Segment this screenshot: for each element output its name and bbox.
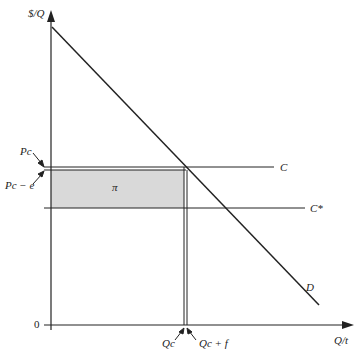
c-label: C — [280, 162, 287, 173]
y-axis-arrow-icon — [47, 10, 55, 22]
pc-pointer-arrow-icon — [33, 153, 44, 167]
pc-minus-e-label: Pc − e — [5, 180, 34, 191]
d-label: D — [306, 282, 314, 293]
origin-label: 0 — [34, 319, 40, 330]
diagram-graphics — [0, 0, 357, 354]
qc-label: Qc — [162, 338, 175, 349]
diagram-canvas: $/Q 0 Q/t Pc Pc − e C C* D π Qc Qc + f — [0, 0, 357, 354]
c-star-label: C* — [310, 203, 323, 214]
qc-plus-f-label: Qc + f — [199, 338, 228, 349]
pc-minus-e-pointer-arrow-icon — [33, 171, 44, 184]
profit-label: π — [112, 182, 118, 193]
demand-line — [52, 27, 319, 305]
qc-plus-f-pointer-arrow-icon — [187, 328, 196, 340]
x-axis-label: Q/t — [334, 335, 348, 346]
y-axis-label: $/Q — [28, 8, 45, 19]
qc-pointer-arrow-icon — [175, 328, 184, 340]
pc-label: Pc — [20, 146, 32, 157]
x-axis-arrow-icon — [342, 321, 354, 329]
